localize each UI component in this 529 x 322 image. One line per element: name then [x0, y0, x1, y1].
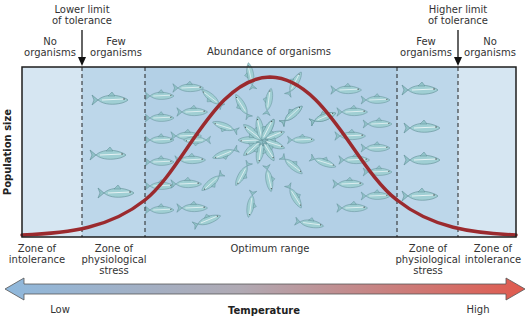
lower-limit-arrow: [78, 30, 86, 66]
x-axis-label: Temperature: [214, 305, 314, 316]
higher-limit-arrow: [454, 30, 462, 66]
zone-label-intolerance-right: Zone of intolerance: [458, 243, 528, 265]
zone-label-stress-left: Zone of physiological stress: [72, 243, 156, 276]
zone-intolerance-left-area: [22, 67, 82, 237]
low-label: Low: [40, 304, 80, 315]
temperature-arrow: [5, 278, 525, 300]
zone-intolerance-right-area: [458, 67, 516, 237]
high-label: High: [458, 304, 498, 315]
y-axis-label: Population size: [2, 107, 16, 197]
zone-label-optimum: Optimum range: [200, 243, 340, 254]
zone-label-intolerance-left: Zone of intolerance: [2, 243, 72, 265]
